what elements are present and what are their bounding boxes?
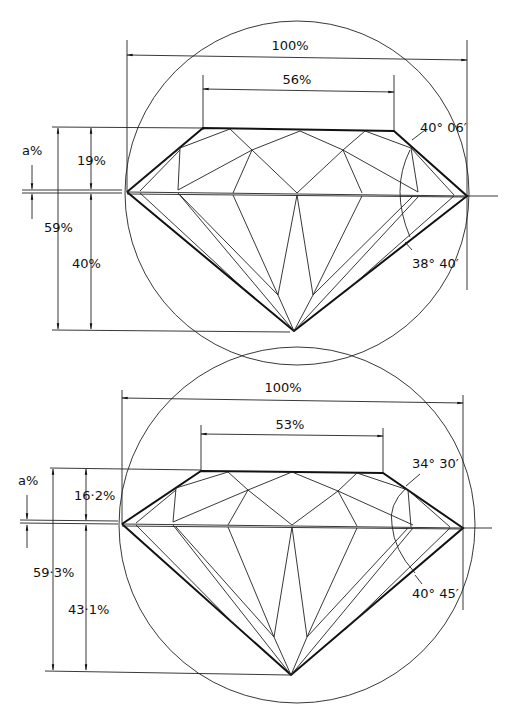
diameter-label: 100%	[264, 380, 301, 395]
crown-height-label: 19%	[77, 153, 106, 168]
girdle-label: a%	[22, 143, 42, 158]
diameter-label: 100%	[271, 38, 308, 53]
pavilion-angle-label: 40° 45′	[412, 586, 459, 601]
table-label: 53%	[276, 417, 305, 432]
pavilion-depth-label: 40%	[72, 256, 101, 271]
diagram-2: 100% 53% a% 59·3% 16·2% 43·1%	[18, 347, 492, 703]
pavilion-facets	[136, 525, 450, 675]
total-depth-label: 59%	[44, 220, 73, 235]
table-label: 56%	[283, 72, 312, 87]
crown-facets	[136, 472, 450, 527]
diameter-dimension-line	[127, 55, 467, 60]
pavilion-angle-label: 38° 40′	[412, 256, 459, 271]
total-depth-label: 59·3%	[33, 565, 74, 580]
crown-angle-label: 40° 06′	[420, 120, 467, 135]
diamond-proportions-figure: 100% 56% a% 59% 19% 40%	[0, 0, 515, 708]
girdle-label: a%	[18, 473, 38, 488]
diagram-1: 100% 56% a% 59% 19% 40%	[22, 21, 498, 365]
pavilion-facets	[140, 193, 454, 331]
table-dimension-line	[203, 89, 394, 92]
crown-height-label: 16·2%	[74, 488, 115, 503]
diamond-outline	[122, 471, 463, 675]
crown-angle-label: 34° 30′	[412, 456, 459, 471]
angle-arc	[400, 150, 410, 237]
pavilion-depth-label: 43·1%	[68, 602, 109, 617]
